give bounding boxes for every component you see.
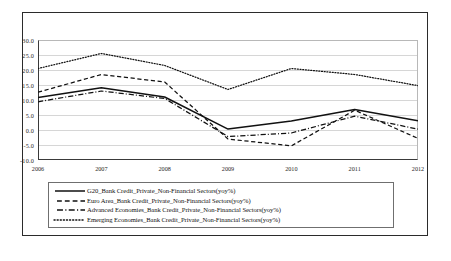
x-axis-tick-label: 2008 xyxy=(158,165,170,172)
y-axis-tick-label: 25.0 xyxy=(22,52,34,59)
chart-legend: G20_Bank Credit_Private_Non-Financial Se… xyxy=(48,182,394,228)
legend-line-swatch xyxy=(53,205,87,214)
x-axis-tick-label: 2006 xyxy=(32,165,44,172)
y-axis-tick-label: 30.0 xyxy=(22,37,34,44)
legend-item-label: Emerging Economies_Bank Credit_Private_N… xyxy=(87,216,280,223)
legend-item: G20_Bank Credit_Private_Non-Financial Se… xyxy=(53,186,389,196)
y-axis-tick-label: -5.0 xyxy=(23,142,34,149)
legend-line-swatch xyxy=(53,215,87,224)
series-line-0 xyxy=(38,88,418,129)
x-axis-tick-label: 2012 xyxy=(412,165,424,172)
legend-line-swatch xyxy=(53,196,87,205)
legend-item: Emerging Economies_Bank Credit_Private_N… xyxy=(53,215,389,225)
y-axis-tick-label: 10.0 xyxy=(22,97,34,104)
y-axis-tick-label: 20.0 xyxy=(22,67,34,74)
y-axis-tick-label: 0.0 xyxy=(26,127,34,134)
y-axis-tick-labels: 30.025.020.015.010.05.00.0-5.0-10.0 xyxy=(0,40,34,160)
legend-item: Advanced Economies_Bank Credit_Private_N… xyxy=(53,205,389,215)
x-axis-tick-label: 2007 xyxy=(95,165,107,172)
x-axis-tick-label: 2011 xyxy=(349,165,361,172)
series-line-3 xyxy=(38,54,418,90)
figure-container: 30.025.020.015.010.05.00.0-5.0-10.0 2006… xyxy=(0,0,451,261)
y-axis-tick-label: -10.0 xyxy=(20,157,34,164)
legend-line-swatch xyxy=(53,186,87,195)
x-axis-tick-label: 2010 xyxy=(285,165,297,172)
series-lines xyxy=(38,40,418,160)
plot-area xyxy=(38,40,418,160)
y-axis-tick-label: 5.0 xyxy=(26,112,34,119)
legend-item-label: Euro Area_Bank Credit_Private_Non-Financ… xyxy=(87,197,251,204)
legend-item: Euro Area_Bank Credit_Private_Non-Financ… xyxy=(53,196,389,206)
x-axis-tick-label: 2009 xyxy=(222,165,234,172)
y-axis-tick-label: 15.0 xyxy=(22,82,34,89)
legend-item-label: G20_Bank Credit_Private_Non-Financial Se… xyxy=(87,187,235,194)
legend-item-label: Advanced Economies_Bank Credit_Private_N… xyxy=(87,206,281,213)
x-axis-tick-labels: 2006200720082009201020112012 xyxy=(38,163,418,177)
